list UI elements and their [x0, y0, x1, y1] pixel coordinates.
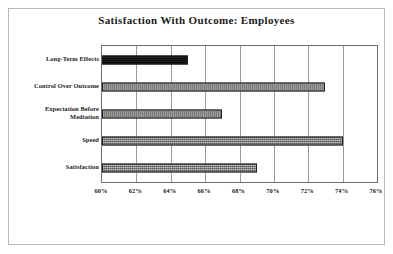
bar	[102, 55, 188, 64]
x-tick-label: 62%	[129, 187, 142, 194]
bar-row	[102, 46, 377, 73]
x-tick-label: 70%	[266, 187, 279, 194]
category-label-line: Control Over Outcome	[17, 82, 99, 90]
bar-row	[102, 128, 377, 155]
category-label: Expectation BeforeMediation	[17, 105, 99, 121]
bar	[102, 109, 222, 118]
category-label-line: Mediation	[17, 113, 99, 121]
plot-area	[101, 45, 378, 183]
y-axis-category-labels: Long-Term EffectsControl Over OutcomeExp…	[17, 45, 99, 183]
x-axis-tick-labels: 60%62%64%66%68%70%72%74%76%	[101, 187, 378, 201]
category-label-line: Speed	[17, 136, 99, 144]
bar-row	[102, 73, 377, 100]
category-label-line: Long-Term Effects	[17, 55, 99, 63]
category-label: Satisfaction	[17, 163, 99, 171]
category-label: Long-Term Effects	[17, 55, 99, 63]
x-tick-label: 72%	[301, 187, 314, 194]
category-label-line: Expectation Before	[17, 105, 99, 113]
x-tick-label: 68%	[232, 187, 245, 194]
bar	[102, 82, 325, 91]
x-tick-label: 64%	[163, 187, 176, 194]
bar-series	[102, 46, 377, 182]
category-label: Speed	[17, 136, 99, 144]
bar	[102, 137, 343, 146]
bar-row	[102, 155, 377, 182]
category-label-line: Satisfaction	[17, 163, 99, 171]
category-label: Control Over Outcome	[17, 82, 99, 90]
x-tick-label: 66%	[198, 187, 211, 194]
bar-row	[102, 100, 377, 127]
x-tick-label: 74%	[335, 187, 348, 194]
bar	[102, 164, 257, 173]
x-tick-label: 76%	[369, 187, 382, 194]
chart-title: Satisfaction With Outcome: Employees	[9, 14, 384, 26]
x-tick-label: 60%	[94, 187, 107, 194]
chart-figure: Satisfaction With Outcome: Employees Lon…	[8, 8, 385, 245]
